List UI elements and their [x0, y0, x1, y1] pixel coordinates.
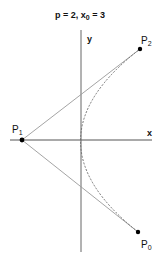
label-p1: P1 [12, 124, 23, 136]
diagram-title: p = 2, x0 = 3 [55, 10, 105, 21]
y-axis-label: y [87, 34, 92, 44]
tangent-line-p1-p0 [22, 140, 138, 232]
label-p2: P2 [141, 35, 152, 47]
point-p2 [138, 47, 142, 51]
point-p0 [136, 230, 140, 234]
label-p0: P0 [141, 239, 152, 251]
parabola-diagram: p = 2, x0 = 3 x y P0 P1 P2 [0, 0, 160, 261]
x-axis-label: x [147, 128, 152, 138]
point-p1 [20, 138, 25, 143]
